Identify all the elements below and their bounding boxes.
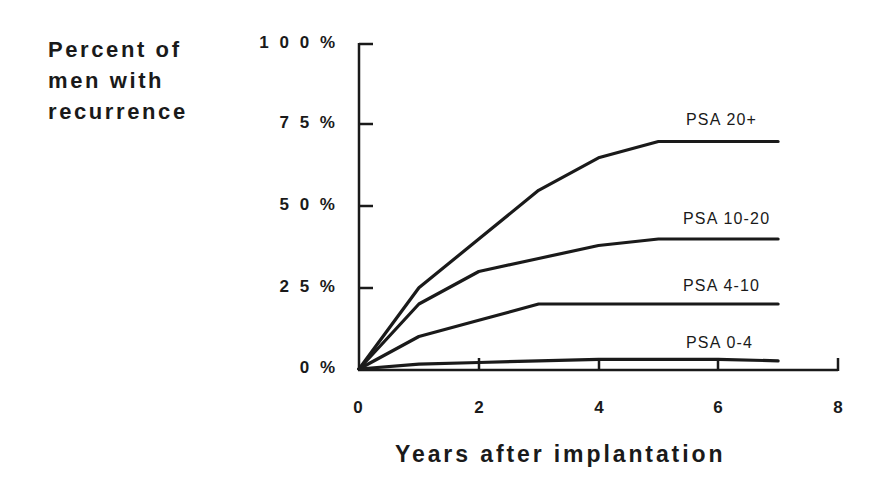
series-label-psa-10-20: PSA 10-20 — [683, 210, 770, 228]
plot-area — [0, 0, 888, 499]
x-tick-0: 0 — [343, 398, 373, 418]
x-axis-title: Years after implantation — [395, 441, 725, 468]
series-label-psa-20-plus: PSA 20+ — [686, 111, 757, 129]
series-line-psa-0-4 — [359, 359, 778, 369]
x-tick-6: 6 — [703, 398, 733, 418]
series-label-psa-4-10: PSA 4-10 — [683, 277, 760, 295]
x-tick-8: 8 — [823, 398, 853, 418]
x-tick-2: 2 — [464, 398, 494, 418]
x-tick-4: 4 — [584, 398, 614, 418]
axes — [358, 43, 838, 371]
series-label-psa-0-4: PSA 0-4 — [686, 334, 753, 352]
